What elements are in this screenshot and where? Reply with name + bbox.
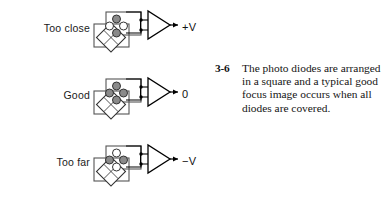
lead-upper: [126, 79, 141, 87]
photodiode-top: [113, 149, 121, 157]
row-label-too-far: Too far: [0, 156, 90, 168]
photodiode-bottom: [113, 96, 121, 104]
photodiode-left: [106, 89, 114, 97]
figure-photodiode-focus: Too close: [0, 0, 383, 202]
junction-dot-lower: [139, 162, 142, 165]
figure-number: 3-6: [215, 62, 230, 75]
figure-caption: 3-6 The photo diodes are arranged in a s…: [215, 62, 383, 115]
output-label-good: 0: [182, 88, 188, 100]
diagram-row-good: Good: [0, 67, 215, 135]
output-label-too-close: +V: [182, 21, 196, 33]
junction-dot-lower: [139, 28, 142, 31]
amplifier-triangle: [148, 11, 170, 39]
output-label-too-far: −V: [182, 155, 196, 167]
photodiode-right: [120, 22, 128, 30]
amplifier-triangle: [148, 145, 170, 173]
output-arrow-icon: [173, 23, 178, 28]
output-arrow-icon: [173, 157, 178, 162]
junction-dot-upper: [139, 18, 142, 21]
junction-dot-upper: [139, 85, 142, 88]
diagram-row-too-far: Too far: [0, 134, 215, 202]
amplifier-triangle: [148, 78, 170, 106]
lead-upper: [126, 146, 141, 154]
row-label-too-close: Too close: [0, 22, 90, 34]
photodiode-bottom: [113, 29, 121, 37]
photodiode-right: [120, 156, 128, 164]
photodiode-top: [113, 82, 121, 90]
photodiode-right: [120, 89, 128, 97]
photodiode-top: [113, 15, 121, 23]
output-arrow-icon: [173, 90, 178, 95]
lead-upper: [126, 12, 141, 20]
circuit-schematic-good: [90, 67, 180, 135]
diagram-row-too-close: Too close: [0, 0, 215, 68]
photodiode-bottom: [113, 163, 121, 171]
photodiode-left: [106, 22, 114, 30]
photodiode-left: [106, 156, 114, 164]
junction-dot-lower: [139, 95, 142, 98]
junction-dot-upper: [139, 152, 142, 155]
row-label-good: Good: [0, 89, 90, 101]
circuit-schematic-too-close: [90, 0, 180, 68]
figure-caption-text: The photo diodes are arranged in a squar…: [242, 62, 383, 115]
circuit-schematic-too-far: [90, 134, 180, 202]
